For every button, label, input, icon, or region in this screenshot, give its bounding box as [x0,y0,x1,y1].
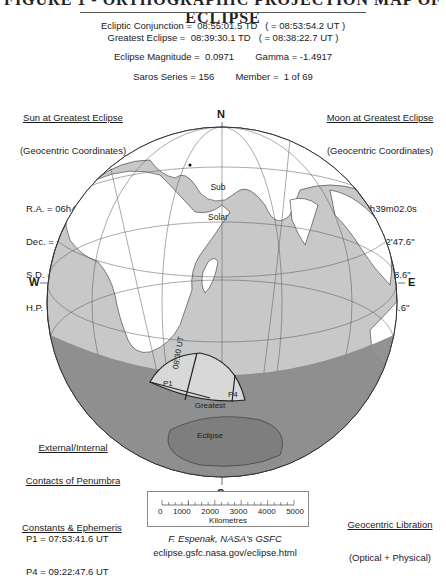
credit-author: F. Espenak, NASA's GSFC [140,533,310,544]
sub-solar-point [189,164,192,167]
scale-tick-0: 0 [158,507,162,516]
east-label: E [408,276,415,288]
scale-labels: 0 1000 2000 3000 4000 5000 [158,507,304,516]
greatest-eclipse-marker: Greatest Eclipse [189,381,231,451]
scale-tick-1000: 1000 [173,507,191,516]
p1-marker: P1 [163,378,173,389]
sub-solar-line2: Solar [200,212,236,222]
libration-panel: Geocentric Libration (Optical + Physical… [340,497,440,579]
scale-unit: Kilometres [148,516,308,525]
scale-tick-2000: 2000 [201,507,219,516]
contacts-title-2: Contacts of Penumbra [18,475,128,486]
greatest-line2: Eclipse [189,431,231,441]
scale-tick-5000: 5000 [286,507,304,516]
sub-solar-line1: Sub [200,182,236,192]
libration-subtitle: (Optical + Physical) [340,552,440,563]
north-label: N [217,108,225,120]
credit-url[interactable]: eclipse.gsfc.nasa.gov/eclipse.html [140,547,310,558]
contacts-title-1: External/Internal [18,442,128,453]
greatest-line1: Greatest [189,401,231,411]
scale-tick-4000: 4000 [258,507,276,516]
west-label: W [29,276,39,288]
constants-panel: Constants & Ephemeris ΔT = 67.3 s k1 = 0… [18,500,148,579]
scale-tick-3000: 3000 [230,507,248,516]
libration-title: Geocentric Libration [340,519,440,530]
sub-solar-label: Sub Solar [200,162,236,232]
constants-title: Constants & Ephemeris [18,522,148,533]
scale-bar: 0 1000 2000 3000 4000 5000 Kilometres [147,491,309,527]
